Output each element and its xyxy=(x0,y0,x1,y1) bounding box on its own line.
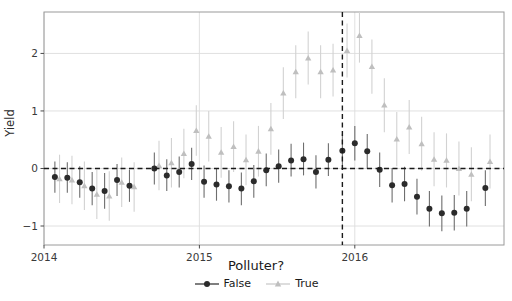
y-tick-label: 0 xyxy=(14,162,38,174)
legend: False True xyxy=(0,277,512,290)
chart-plot-area xyxy=(0,0,512,301)
legend-marker-triangle-icon xyxy=(265,278,291,290)
legend-title: Polluter? xyxy=(0,258,512,273)
chart-figure: Yield −1012201420152016 Polluter? False … xyxy=(0,0,512,301)
y-tick-label: 2 xyxy=(14,47,38,59)
y-tick-label: 1 xyxy=(14,105,38,117)
y-axis-label: Yield xyxy=(0,0,20,245)
legend-entry-false[interactable]: False xyxy=(194,277,252,290)
legend-marker-circle-icon xyxy=(194,278,220,290)
legend-entry-true[interactable]: True xyxy=(265,277,318,290)
legend-label-false: False xyxy=(224,277,252,290)
y-tick-label: −1 xyxy=(14,220,38,232)
legend-label-true: True xyxy=(295,277,318,290)
